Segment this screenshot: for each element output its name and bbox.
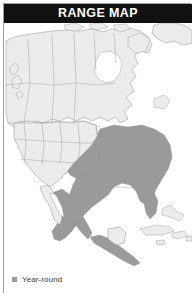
panel-title-bar: RANGE MAP xyxy=(4,4,192,23)
year-round-swatch xyxy=(12,277,17,282)
map-canvas xyxy=(4,23,192,266)
legend-item-label: Year-round xyxy=(22,275,62,284)
jamaica-island xyxy=(156,240,165,245)
range-map-panel: RANGE MAP xyxy=(0,0,194,296)
north-america-map-svg xyxy=(4,23,192,266)
page-title: RANGE MAP xyxy=(58,7,138,20)
puerto-rico-island xyxy=(186,236,192,241)
panel-frame: RANGE MAP xyxy=(3,3,191,293)
map-legend: Year-round xyxy=(4,266,192,293)
